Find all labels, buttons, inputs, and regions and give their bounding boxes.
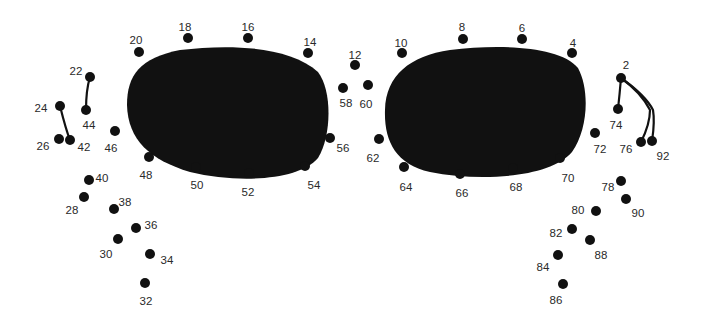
dot-92: 92 [647,136,669,162]
dot-marker [131,223,141,233]
dot-number-label: 22 [70,65,83,77]
dot-marker [374,134,384,144]
dot-marker [338,83,348,93]
dot-marker [558,279,568,289]
dot-90: 90 [621,194,644,219]
dot-marker [55,101,65,111]
dot-14: 14 [303,36,317,58]
dot-number-label: 50 [191,179,204,191]
dot-marker [647,136,657,146]
dot-marker [145,249,155,259]
dot-number-label: 86 [550,294,563,306]
dot-number-label: 70 [562,172,575,184]
left-lens [127,47,329,178]
dot-32: 32 [140,278,153,307]
dot-marker [191,162,201,172]
dot-marker [140,278,150,288]
dot-84: 84 [537,250,563,273]
dot-number-label: 78 [602,181,615,193]
dot-marker [567,224,577,234]
dot-marker [81,105,91,115]
dot-number-label: 28 [66,204,79,216]
dot-40: 40 [84,172,108,185]
dot-number-label: 48 [140,169,153,181]
dot-marker [85,72,95,82]
dot-number-label: 34 [161,254,174,266]
dot-56: 56 [325,133,349,154]
dot-number-label: 54 [308,179,321,191]
dot-marker [517,34,527,44]
dot-54: 54 [300,161,321,191]
dot-16: 16 [242,21,255,43]
dot-8: 8 [458,21,468,44]
dot-number-label: 74 [610,119,623,131]
dot-number-label: 46 [105,142,118,154]
dot-marker [591,206,601,216]
dot-80: 80 [572,204,601,216]
dot-36: 36 [131,219,157,233]
dot-number-label: 30 [100,248,113,260]
dot-marker [363,80,373,90]
dot-number-label: 56 [337,142,350,154]
dot-28: 28 [66,192,89,216]
dot-number-label: 60 [360,98,373,110]
dot-number-label: 64 [400,181,413,193]
dot-72: 72 [590,128,606,155]
dot-marker [300,161,310,171]
dot-34: 34 [145,249,174,266]
dot-number-label: 18 [179,21,192,33]
dot-number-label: 58 [340,97,353,109]
dot-number-label: 12 [349,49,362,61]
dot-58: 58 [338,83,352,109]
dot-marker [590,128,600,138]
dot-number-label: 2 [623,59,629,71]
dot-marker [616,176,626,186]
dot-48: 48 [140,152,154,181]
dot-number-label: 92 [657,150,670,162]
dot-number-label: 20 [130,34,143,46]
dot-62: 62 [367,134,384,164]
dot-number-label: 10 [395,37,408,49]
dot-number-label: 16 [242,21,255,33]
dot-number-label: 80 [572,204,585,216]
dot-number-label: 36 [145,219,158,231]
dot-4: 4 [567,37,577,58]
dot-number-label: 6 [519,22,525,34]
dot-number-label: 52 [242,186,255,198]
dot-44: 44 [81,105,96,131]
dot-marker [397,48,407,58]
dot-88: 88 [585,235,607,261]
dot-marker [325,133,335,143]
dot-marker [621,194,631,204]
dot-12: 12 [349,49,362,70]
dot-marker [455,169,465,179]
dot-number-label: 90 [632,207,645,219]
dot-marker [183,33,193,43]
dot-number-label: 68 [510,181,523,193]
dot-64: 64 [399,162,413,193]
dot-number-label: 44 [83,119,96,131]
dot-60: 60 [360,80,373,110]
dot-marker [303,48,313,58]
dot-number-label: 4 [570,37,577,49]
dot-18: 18 [179,21,193,43]
dot-82: 82 [550,224,577,239]
dot-number-label: 24 [35,102,48,114]
dot-number-label: 40 [96,172,109,184]
dot-2: 2 [616,59,629,83]
dot-marker [458,34,468,44]
dot-marker [84,175,94,185]
dot-number-label: 32 [140,295,153,307]
dot-6: 6 [517,22,527,44]
dot-70: 70 [555,153,574,184]
dot-number-label: 82 [550,227,563,239]
line-2-76 [621,78,650,142]
dot-marker [65,135,75,145]
dot-marker [636,137,646,147]
dot-26: 26 [37,134,64,152]
dot-marker [585,235,595,245]
dot-marker [350,60,360,70]
dot-number-label: 8 [459,21,465,33]
dot-22: 22 [70,65,95,82]
dot-marker [613,104,623,114]
